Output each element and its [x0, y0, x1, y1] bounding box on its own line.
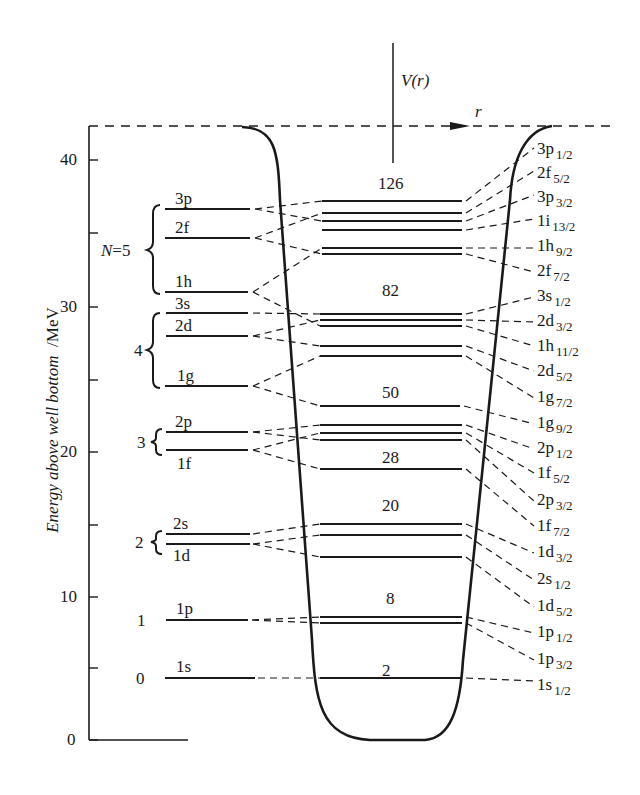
shell-label-2: 2 [135, 534, 144, 551]
magic-8: 8 [386, 590, 395, 607]
right-level-2f5-2: 2f5/2 [537, 164, 570, 185]
right-level-2d3-2: 2d3/2 [537, 312, 573, 333]
right-level-1p3-2: 1p3/2 [537, 650, 573, 671]
right-level-3p1-2: 3p1/2 [537, 140, 573, 161]
y-tick-10: 10 [60, 588, 77, 605]
level-1d: 1d [173, 547, 190, 564]
magic-50: 50 [382, 384, 399, 401]
right-level-1f5-2: 1f5/2 [537, 464, 570, 485]
right-level-1d3-2: 1d3/2 [537, 543, 573, 564]
right-level-2f7-2: 2f7/2 [537, 262, 570, 283]
right-level-1h9-2: 1h9/2 [537, 237, 573, 258]
right-level-1i13-2: 1i13/2 [537, 212, 575, 233]
right-level-3s1-2: 3s1/2 [537, 287, 571, 308]
right-level-1s1-2: 1s1/2 [537, 676, 571, 697]
level-2d: 2d [175, 317, 192, 334]
right-level-2p3-2: 2p3/2 [537, 491, 573, 512]
right-level-1g9-2: 1g9/2 [537, 414, 573, 435]
magic-126: 126 [378, 175, 404, 192]
level-1g: 1g [177, 367, 194, 384]
right-level-1f7-2: 1f7/2 [537, 517, 570, 538]
right-level-1d5-2: 1d5/2 [537, 597, 573, 618]
y-ticks [89, 160, 98, 740]
level-3p: 3p [175, 190, 192, 207]
right-level-1p1-2: 1p1/2 [537, 623, 573, 644]
level-2f: 2f [175, 219, 189, 236]
shell-label-0: 0 [136, 670, 145, 687]
level-3s: 3s [175, 295, 190, 312]
r-arrow-icon [450, 122, 470, 130]
magic-82: 82 [382, 282, 399, 299]
level-2p: 2p [175, 413, 192, 430]
right-level-1h11-2: 1h11/2 [537, 337, 579, 358]
magic-28: 28 [382, 449, 399, 466]
right-level-2d5-2: 2d5/2 [537, 362, 573, 383]
level-1s: 1s [176, 658, 191, 675]
right-connectors [464, 148, 534, 681]
magic-20: 20 [382, 497, 399, 514]
level-1f: 1f [177, 455, 191, 472]
shell-braces [147, 205, 162, 554]
magic-2: 2 [382, 662, 391, 679]
level-1h: 1h [175, 273, 192, 290]
y-tick-40: 40 [60, 151, 77, 168]
shell-label-5: N=5 [101, 242, 130, 259]
right-level-2s1-2: 2s1/2 [537, 570, 571, 591]
right-level-3p3-2: 3p3/2 [537, 188, 573, 209]
shell-label-4: 4 [134, 342, 143, 359]
left-connectors [252, 201, 322, 678]
shell-label-3: 3 [137, 434, 146, 451]
level-1p: 1p [176, 600, 193, 617]
shell-label-1: 1 [137, 612, 146, 629]
y-axis-label: Energy above well bottom /MeV [43, 270, 63, 570]
potential-label: V(r) [401, 72, 429, 89]
level-2s: 2s [173, 515, 188, 532]
y-tick-0: 0 [67, 731, 76, 748]
right-level-1g7-2: 1g7/2 [537, 388, 573, 409]
r-label: r [475, 103, 482, 120]
right-level-2p1-2: 2p1/2 [537, 439, 573, 460]
